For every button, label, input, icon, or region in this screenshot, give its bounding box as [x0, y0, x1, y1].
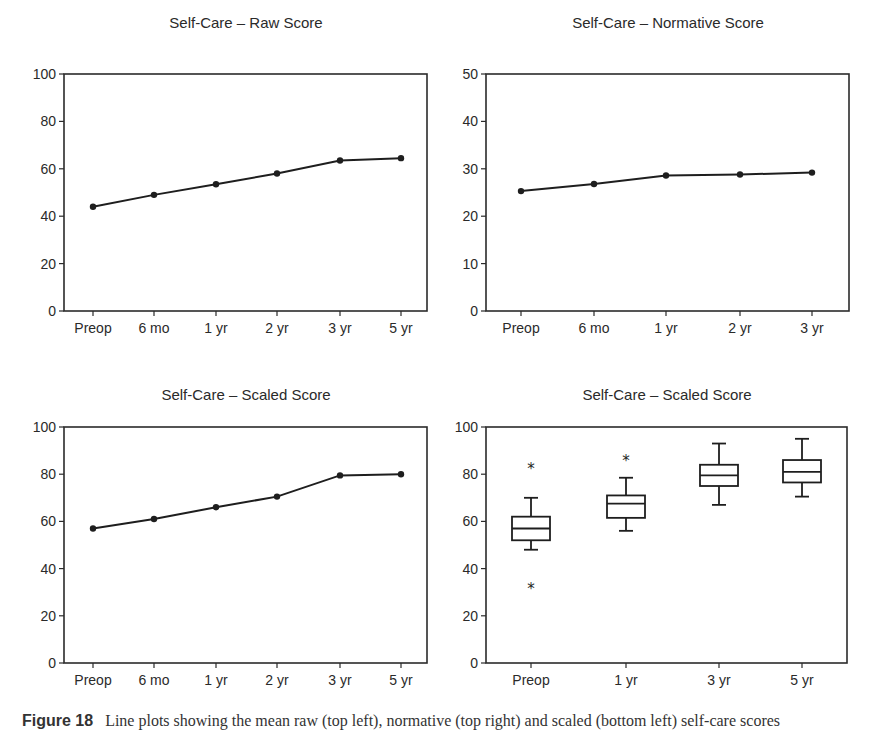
x-tick-label: 5 yr [790, 672, 814, 688]
x-tick-label: 1 yr [614, 672, 638, 688]
x-tick-label: 3 yr [707, 672, 731, 688]
y-tick-label: 100 [455, 419, 479, 435]
box-preop: ** [512, 460, 550, 598]
box-3-yr [700, 444, 738, 505]
outlier-asterisk: * [527, 580, 535, 598]
y-tick-label: 60 [462, 513, 478, 529]
box-5-yr [783, 439, 821, 497]
iqr-box [607, 495, 645, 517]
y-tick-label: 20 [462, 608, 478, 624]
y-tick-label: 0 [470, 655, 478, 671]
outlier-asterisk: * [622, 452, 630, 470]
figure-caption-text: Line plots showing the mean raw (top lef… [105, 712, 780, 729]
box-1-yr: * [607, 452, 645, 531]
figure-caption-label: Figure 18 [22, 712, 93, 729]
x-tick-label: Preop [512, 672, 550, 688]
figure-caption: Figure 18 Line plots showing the mean ra… [22, 712, 780, 730]
outlier-asterisk: * [527, 460, 535, 478]
y-tick-label: 40 [462, 561, 478, 577]
y-tick-label: 80 [462, 466, 478, 482]
